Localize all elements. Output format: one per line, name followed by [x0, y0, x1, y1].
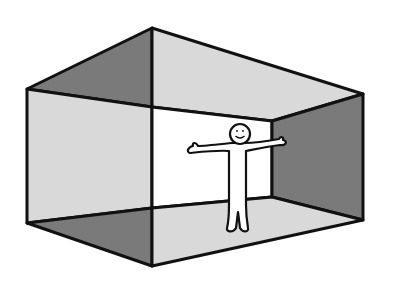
room-illustration [0, 0, 397, 290]
figure-head [230, 124, 250, 144]
right-eye [242, 130, 244, 132]
back-wall [152, 107, 272, 208]
left-wall [27, 89, 152, 223]
left-eye [236, 130, 238, 132]
